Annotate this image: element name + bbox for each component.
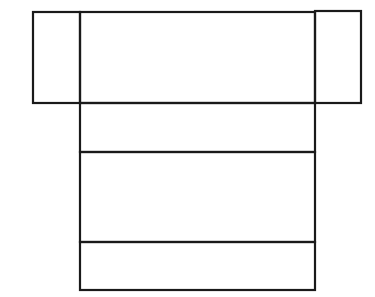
face-middle-tall <box>80 152 315 242</box>
face-top-center <box>80 12 315 103</box>
face-bottom-short <box>80 242 315 290</box>
prism-net-diagram <box>0 0 375 297</box>
face-left-flap <box>33 12 80 103</box>
face-right-flap <box>315 11 361 103</box>
face-middle-short <box>80 103 315 152</box>
